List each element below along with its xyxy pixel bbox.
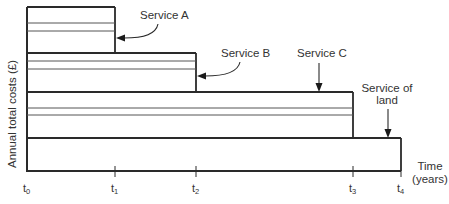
service-land-label-line1: Service of xyxy=(361,82,413,94)
service-a-arrowhead-icon xyxy=(116,35,125,42)
y-axis-label: Annual total costs (£) xyxy=(6,60,18,168)
service-land-block xyxy=(27,138,401,171)
service-a-block xyxy=(27,7,115,53)
service-b-label: Service B xyxy=(221,47,271,59)
service-a-arrow xyxy=(124,24,158,38)
service-b-arrow xyxy=(205,62,240,76)
life-cycle-cost-diagram: Annual total costs (£) t0 t1 t2 t3 xyxy=(0,0,449,204)
x-axis-label-time: Time xyxy=(417,160,442,172)
x-axis-label-years: (years) xyxy=(412,173,448,185)
tick-label-t2: t2 xyxy=(192,182,199,196)
service-c-arrowhead-icon xyxy=(316,83,323,92)
service-land-arrowhead-icon xyxy=(385,129,392,138)
service-c-block xyxy=(27,92,353,138)
service-land-label-line2: land xyxy=(376,94,398,106)
tick-label-t4: t4 xyxy=(397,182,404,196)
service-c-label: Service C xyxy=(297,47,347,59)
tick-label-t0: t0 xyxy=(23,182,30,196)
service-b-arrowhead-icon xyxy=(197,73,206,80)
tick-label-t3: t3 xyxy=(349,182,356,196)
service-a-label: Service A xyxy=(140,9,189,21)
service-b-block xyxy=(27,53,196,92)
tick-label-t1: t1 xyxy=(111,182,118,196)
